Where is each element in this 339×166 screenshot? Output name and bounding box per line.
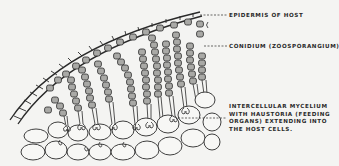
mycelium-label: Intercellular Mycelium with Haustoria (F… — [229, 103, 330, 133]
partial-spore — [207, 22, 209, 28]
epidermis-label: Epidermis of Host — [229, 12, 303, 20]
mycelium-label-line-2: with Haustoria (Feeding — [229, 111, 330, 119]
mycelium-label-line-3: Organs) Extending Into — [229, 118, 330, 126]
epidermis-layer — [10, 12, 202, 124]
mycelium-label-line-4: The Host Cells. — [229, 126, 330, 134]
mycelium-label-line-1: Intercellular Mycelium — [229, 103, 330, 111]
host-cells — [21, 92, 221, 160]
conidium-label: Conidium (Zoosporangium) — [229, 43, 339, 51]
